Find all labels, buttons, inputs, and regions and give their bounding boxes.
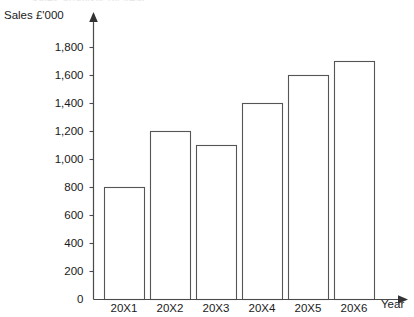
bar-20X6 — [335, 62, 375, 300]
y-tick-label-1200: 1,200 — [26, 125, 84, 137]
y-tick-label-600: 600 — [26, 209, 84, 221]
y-axis-arrowhead — [89, 12, 98, 22]
y-tick-label-200: 200 — [26, 265, 84, 277]
bar-20X4 — [243, 104, 283, 300]
bar-20X2 — [151, 132, 191, 300]
y-tick-label-1800: 1,800 — [26, 41, 84, 53]
y-tick-label-1400: 1,400 — [26, 97, 84, 109]
x-axis-arrowhead — [398, 295, 408, 304]
y-tick-label-0: 0 — [26, 293, 84, 305]
y-tick-label-1000: 1,000 — [26, 153, 84, 165]
bar-20X5 — [289, 76, 329, 300]
y-tick-label-400: 400 — [26, 237, 84, 249]
y-tick-label-1600: 1,600 — [26, 69, 84, 81]
x-tick-label-20X6: 20X6 — [327, 302, 381, 314]
bar-20X1 — [105, 188, 145, 300]
bar-chart-figure: Sales analysis by year Sales £'000 Year … — [0, 0, 414, 317]
bars-group — [105, 62, 375, 300]
y-tick-label-800: 800 — [26, 181, 84, 193]
bar-20X3 — [197, 146, 237, 300]
